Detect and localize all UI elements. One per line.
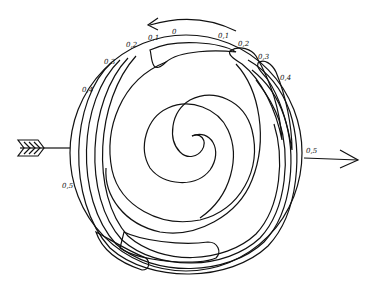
label-right-0-4: 0,4 bbox=[280, 74, 291, 82]
incoming-arrow-icon bbox=[18, 140, 70, 156]
rotation-arrow-icon bbox=[148, 18, 236, 31]
label-left-0-4: 0,4 bbox=[82, 86, 93, 94]
disc-diagram: 0,5 0,4 0,3 0,2 0,1 0 0,1 0,2 0,3 0,4 0,… bbox=[0, 0, 374, 296]
label-right-0-5: 0,5 bbox=[306, 147, 318, 155]
label-left-0-5: 0,5 bbox=[62, 182, 74, 190]
label-left-0-3: 0,3 bbox=[104, 58, 116, 66]
label-right-0-3: 0,3 bbox=[258, 53, 270, 61]
spiral-curve bbox=[106, 62, 260, 233]
outer-contours bbox=[70, 35, 302, 274]
label-left-0-1: 0,1 bbox=[148, 34, 159, 42]
upper-crescents bbox=[150, 43, 292, 150]
label-left-0-2: 0,2 bbox=[126, 41, 138, 49]
label-zero: 0 bbox=[172, 28, 177, 36]
label-right-0-1: 0,1 bbox=[218, 32, 229, 40]
label-right-0-2: 0,2 bbox=[238, 40, 250, 48]
